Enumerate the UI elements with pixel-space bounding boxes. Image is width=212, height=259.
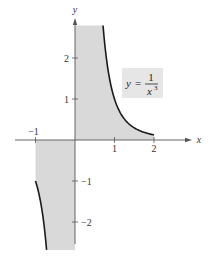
function-label-eq: = [135,77,141,89]
function-label-numerator: 1 [148,71,154,83]
function-label: y = 1 x 3 [122,68,163,98]
x-axis-label: x [196,134,202,145]
shaded-regions [36,26,155,250]
function-label-exponent: 3 [154,84,158,92]
function-label-lhs: y [125,77,131,89]
x-tick-label: −1 [28,126,39,137]
x-axis-arrow-icon [185,138,192,142]
y-tick-label: −1 [81,176,92,187]
y-axis-arrow-icon [73,18,77,25]
chart: −11221−1−2 y = 1 x 3 y x [0,0,212,259]
shaded-region-left [36,140,76,250]
x-tick-label: 1 [112,143,117,154]
y-tick-label: −2 [81,217,92,228]
y-tick-label: 1 [64,94,69,105]
function-label-denominator: x [146,85,152,97]
y-tick-label: 2 [64,53,69,64]
y-axis-label: y [72,4,78,15]
x-tick-label: 2 [152,143,157,154]
